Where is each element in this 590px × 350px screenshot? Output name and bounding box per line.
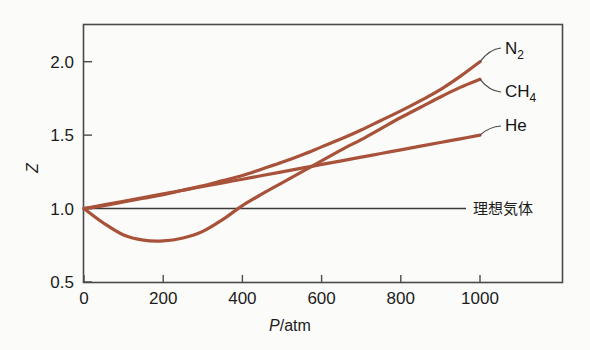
x-tick-label-0: 0 [79,289,88,308]
curve-ch4 [84,79,480,241]
leader-line-n2 [480,48,501,62]
x-tick-label-800: 800 [387,289,415,308]
x-tick-label-200: 200 [149,289,177,308]
series-label-n2: N2 [505,39,524,62]
chart-canvas: 02004006008001000 0.51.01.52.0 N2 CH4 He… [0,0,590,350]
x-tick-label-600: 600 [307,289,335,308]
leader-line-ch4 [480,79,501,92]
series-label-ch4: CH4 [505,82,537,105]
x-tick-label-1000: 1000 [461,289,499,308]
series-label-he: He [505,116,527,135]
plot-frame [84,25,563,283]
y-tick-label-1.5: 1.5 [50,126,74,145]
y-axis-title: Z [24,162,41,174]
y-axis-tick-labels: 0.51.01.52.0 [50,53,74,292]
x-axis-ticks [84,275,480,282]
compressibility-factor-figure: 02004006008001000 0.51.01.52.0 N2 CH4 He… [0,0,590,350]
x-axis-title: P/atm [269,317,311,334]
y-tick-label-1.0: 1.0 [50,200,74,219]
leader-line-he [480,126,501,135]
ideal-gas-label: 理想気体 [473,200,533,218]
x-axis-tick-labels: 02004006008001000 [79,289,499,308]
y-tick-label-2.0: 2.0 [50,53,74,72]
y-tick-label-0.5: 0.5 [50,273,74,292]
curve-n2 [84,62,480,209]
y-axis-ticks [84,62,92,282]
x-tick-label-400: 400 [228,289,256,308]
